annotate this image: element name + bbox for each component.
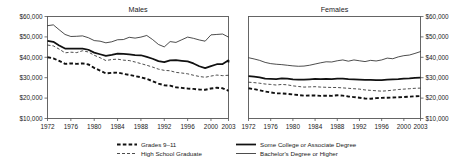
y-tick-label-females-3: $30,000 [426, 74, 450, 81]
panel-title-females: Females [321, 5, 349, 14]
x-tick-label-males-2: 1980 [87, 123, 102, 130]
y-tick-label-males-3: $30,000 [19, 74, 43, 81]
y-tick-label-females-2: $40,000 [426, 54, 450, 61]
x-tick-label-females-7: 2000 [397, 123, 412, 130]
x-tick-label-males-3: 1984 [110, 123, 125, 130]
chart-background [0, 0, 469, 166]
y-tick-label-females-1: $50,000 [426, 33, 450, 40]
y-tick-label-females-5: $10,000 [426, 115, 450, 122]
y-tick-label-males-0: $60,000 [19, 13, 43, 20]
x-tick-label-females-1: 1976 [264, 123, 279, 130]
x-tick-label-females-5: 1992 [352, 123, 367, 130]
income-by-education-chart-figure: Males$60,000$50,000$40,000$30,000$20,000… [0, 0, 469, 166]
x-tick-label-females-8: 2003 [413, 123, 428, 130]
legend-label-bachelor-s-degree-or-higher: Bachelor's Degree or Higher [260, 150, 338, 157]
panel-title-males: Males [128, 5, 148, 14]
y-tick-label-males-2: $40,000 [19, 54, 43, 61]
legend-label-some-college-or-associate-degree: Some College or Associate Degree [260, 141, 357, 148]
x-tick-label-males-6: 1996 [181, 123, 196, 130]
x-tick-label-males-8: 2003 [221, 123, 236, 130]
x-tick-label-females-4: 1988 [330, 123, 345, 130]
x-tick-label-females-2: 1980 [286, 123, 301, 130]
x-tick-label-males-1: 1976 [64, 123, 79, 130]
x-tick-label-females-3: 1984 [308, 123, 323, 130]
legend-label-high-school-graduate: High School Graduate [141, 150, 202, 157]
x-tick-label-males-4: 1988 [134, 123, 149, 130]
y-tick-label-males-1: $50,000 [19, 33, 43, 40]
y-tick-label-females-0: $60,000 [426, 13, 450, 20]
chart-svg: Males$60,000$50,000$40,000$30,000$20,000… [0, 0, 469, 166]
x-tick-label-males-0: 1972 [40, 123, 55, 130]
x-tick-label-males-7: 2000 [204, 123, 219, 130]
x-tick-label-females-0: 1972 [241, 123, 256, 130]
x-tick-label-males-5: 1992 [157, 123, 172, 130]
y-tick-label-males-4: $20,000 [19, 94, 43, 101]
legend-label-grades-9-11: Grades 9–11 [141, 141, 177, 148]
y-tick-label-males-5: $10,000 [19, 115, 43, 122]
y-tick-label-females-4: $20,000 [426, 94, 450, 101]
x-tick-label-females-6: 1996 [375, 123, 390, 130]
